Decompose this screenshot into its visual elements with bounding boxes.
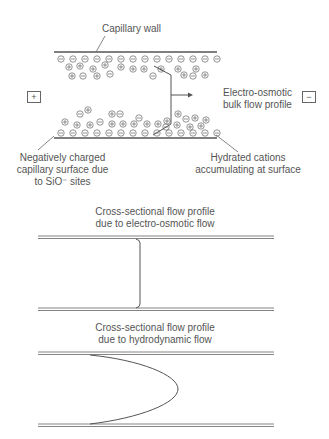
anion-icon <box>190 73 196 79</box>
cation-icon <box>62 119 68 125</box>
cathode-box: − <box>302 91 316 103</box>
cations-label-2: accumulating at surface <box>188 164 308 176</box>
negative-surface-leader <box>38 136 54 150</box>
cation-icon <box>198 123 204 129</box>
cations-label: Hydrated cations accumulating at surface <box>188 152 308 176</box>
anion-icon <box>58 130 64 136</box>
cation-icon <box>193 66 199 72</box>
cation-icon <box>174 122 180 128</box>
anion-icon <box>82 56 88 62</box>
cations-leader <box>216 135 238 152</box>
anion-icon <box>178 130 184 136</box>
anion-icon <box>202 56 208 62</box>
anion-icon <box>106 130 112 136</box>
anion-icon <box>166 56 172 62</box>
anion-icon <box>136 115 142 121</box>
anion-icon <box>118 56 124 62</box>
anion-icon <box>178 56 184 62</box>
anion-icon <box>70 56 76 62</box>
cation-icon <box>90 66 96 72</box>
anode-box: + <box>27 91 41 103</box>
cation-icon <box>175 111 181 117</box>
cation-icon <box>202 72 208 78</box>
hd-title-2: due to hydrodynamic flow <box>70 334 240 346</box>
cation-icon <box>155 121 161 127</box>
cation-icon <box>109 121 115 127</box>
flow-arrow-head <box>188 93 193 98</box>
cation-icon <box>192 115 198 121</box>
anion-icon <box>97 119 103 125</box>
anion-icon <box>58 56 64 62</box>
anion-icon <box>190 130 196 136</box>
cation-icon <box>94 73 100 79</box>
cations-label-1: Hydrated cations <box>188 152 308 164</box>
anion-icon <box>94 130 100 136</box>
negative-surface-label-2: capillary surface due <box>10 164 115 176</box>
capillary-wall-label: Capillary wall <box>102 23 161 35</box>
cation-icon <box>120 121 126 127</box>
ions-group <box>58 56 220 136</box>
electroosmotic-label-1: Electro-osmotic <box>223 87 292 99</box>
eof-flat-profile <box>136 239 140 308</box>
cation-icon <box>131 121 137 127</box>
anion-icon <box>80 73 86 79</box>
anion-icon <box>70 130 76 136</box>
anion-icon <box>214 56 220 62</box>
anion-icon <box>94 56 100 62</box>
hd-title: Cross-sectional flow profile due to hydr… <box>70 322 240 346</box>
cation-icon <box>164 118 170 124</box>
cation-icon <box>74 122 80 128</box>
cation-icon <box>175 66 181 72</box>
anion-icon <box>142 130 148 136</box>
cation-icon <box>87 122 93 128</box>
electroosmotic-label-2: bulk flow profile <box>223 99 292 111</box>
cation-icon <box>77 63 83 69</box>
eof-title-1: Cross-sectional flow profile <box>70 206 240 218</box>
cation-icon <box>85 107 91 113</box>
anion-icon <box>118 130 124 136</box>
negative-surface-label-3: to SiO⁻ sites <box>10 176 115 188</box>
anion-icon <box>107 71 113 77</box>
anion-icon <box>130 56 136 62</box>
eof-title: Cross-sectional flow profile due to elec… <box>70 206 240 230</box>
anion-icon <box>82 130 88 136</box>
anion-icon <box>190 56 196 62</box>
hd-title-1: Cross-sectional flow profile <box>70 322 240 334</box>
capillary-wall-leader <box>96 36 105 52</box>
cation-icon <box>203 117 209 123</box>
anion-icon <box>117 111 123 117</box>
anion-icon <box>214 130 220 136</box>
cation-icon <box>141 66 147 72</box>
cation-icon <box>187 124 193 130</box>
cation-icon <box>144 121 150 127</box>
cation-icon <box>181 72 187 78</box>
hd-parabolic-profile <box>90 355 178 424</box>
cation-icon <box>66 64 72 70</box>
anion-icon <box>150 73 156 79</box>
cation-icon <box>118 64 124 70</box>
anion-icon <box>77 111 83 117</box>
anion-icon <box>154 56 160 62</box>
anion-icon <box>130 130 136 136</box>
cation-icon <box>69 73 75 79</box>
anion-icon <box>202 130 208 136</box>
anion-icon <box>183 116 189 122</box>
negative-surface-label: Negatively charged capillary surface due… <box>10 152 115 188</box>
eof-title-2: due to electro-osmotic flow <box>70 218 240 230</box>
anion-icon <box>106 56 112 62</box>
anion-icon <box>166 130 172 136</box>
cation-icon <box>130 66 136 72</box>
cation-icon <box>109 111 115 117</box>
anion-icon <box>142 56 148 62</box>
cation-icon <box>102 62 108 68</box>
negative-surface-label-1: Negatively charged <box>10 152 115 164</box>
